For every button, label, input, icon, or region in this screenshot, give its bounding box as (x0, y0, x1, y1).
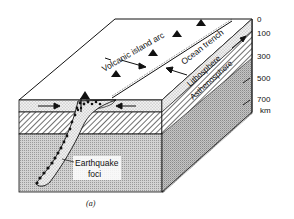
depth-tick-0: 0 (257, 15, 262, 24)
subduction-block-diagram: Volcanic island arc Ocean trench Lithosp… (0, 0, 294, 219)
depth-tick-300: 300 (257, 52, 271, 61)
depth-scale: 0 100 300 500 700 km (257, 15, 271, 115)
depth-unit: km (260, 106, 271, 115)
depth-tick-700: 700 (257, 95, 271, 104)
depth-tick-100: 100 (257, 29, 271, 38)
depth-tick-500: 500 (257, 74, 271, 83)
figure-caption: (a) (86, 199, 96, 208)
label-foci: foci (88, 169, 101, 179)
label-earthquake: Earthquake (75, 158, 119, 168)
